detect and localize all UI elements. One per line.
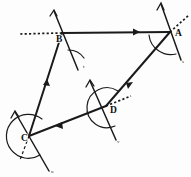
edge-B-to-A-arrow-icon (133, 29, 140, 36)
vertex-label-B: B (56, 34, 63, 44)
transversal-lines-group (11, 3, 181, 171)
transversal-B-tip-icon (50, 10, 57, 16)
vertex-label-A: A (175, 28, 182, 38)
edge-D-to-C (29, 106, 106, 136)
tick-label-D: v (117, 139, 120, 144)
tick-label-C: u (51, 169, 54, 174)
edge-D-to-C-arrow-icon (55, 122, 63, 129)
ray-tick-labels-group: t u v s (51, 59, 184, 174)
geometry-figure: A B C D t u v s (0, 0, 191, 177)
edge-A-to-D-arrow-icon (126, 82, 133, 89)
edge-C-to-B-arrow-icon (43, 79, 50, 86)
tick-label-B: t (83, 64, 85, 69)
vertex-label-D: D (110, 105, 117, 115)
transversal-A-tip-icon (157, 3, 164, 10)
quadrilateral-edges-group (29, 29, 170, 137)
tick-label-A: s (182, 59, 184, 64)
vertex-label-C: C (21, 133, 28, 143)
figure-canvas: A B C D t u v s (0, 0, 191, 177)
edge-B-to-A (62, 32, 170, 33)
edge-A-to-D (106, 32, 170, 106)
